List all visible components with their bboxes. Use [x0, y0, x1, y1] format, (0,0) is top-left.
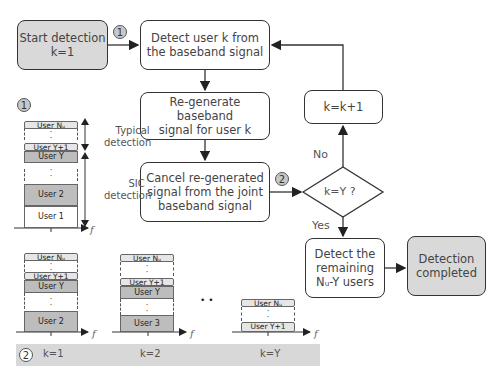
step-k1-label: k=1	[43, 348, 64, 359]
ellipsis-dots: ··	[120, 264, 174, 276]
ellipsis-dots: ··	[24, 168, 78, 180]
start-line1: Start detection	[19, 31, 105, 45]
axis-f-label: f	[190, 328, 194, 339]
start-detection-box: Start detectionk=1	[17, 20, 108, 70]
bar-user-y: User Y	[24, 280, 78, 293]
increment-box: k=k+1	[304, 90, 383, 124]
marker-2-band-icon: 2	[19, 348, 33, 362]
bar-user-1: User 1	[24, 206, 78, 228]
step-labels-band: 2 k=1 k=2 k=Y	[16, 344, 320, 366]
detect-user-line1: Detect user k from	[147, 31, 264, 45]
ellipsis-dots: ··	[24, 297, 78, 309]
bar-user-nu: User Nᵤ	[241, 299, 295, 307]
bar-user-2: User 2	[24, 311, 78, 332]
ellipsis-dots: ··	[241, 309, 295, 321]
cancel-line1: Cancel re-generated	[146, 171, 264, 185]
typical-detection-label: Typicaldetection	[104, 125, 151, 149]
detect-user-line2: the baseband signal	[147, 45, 264, 59]
cancel-box: Cancel re-generatedsignal from the joint…	[140, 162, 270, 222]
detect-remaining-box: Detect theremainingNᵤ-Y users	[305, 238, 385, 298]
step-k2-label: k=2	[140, 348, 161, 359]
remaining-line2: remaining	[315, 261, 376, 275]
regenerate-box: Re-generate basebandsignal for user k	[140, 92, 270, 140]
marker-2-icon: 2	[275, 172, 289, 186]
ellipsis-dots: ··	[24, 130, 78, 142]
increment-label: k=k+1	[324, 100, 364, 114]
ellipsis-between-steps: • •	[200, 295, 213, 305]
sic-detection-label: SICdetection	[104, 178, 151, 202]
step-ky-label: k=Y	[260, 348, 280, 359]
remaining-line1: Detect the	[315, 247, 376, 261]
axis-f-label: f	[314, 328, 318, 339]
detect-user-box: Detect user k fromthe baseband signal	[140, 20, 270, 70]
axis-f-label: f	[92, 328, 96, 339]
completed-line2: completed	[416, 266, 477, 280]
yes-label: Yes	[312, 219, 330, 232]
start-line2: k=1	[19, 45, 105, 59]
axis-f-label: f	[90, 224, 94, 235]
bar-user-y1: User Y+1	[241, 322, 295, 332]
cancel-line2: signal from the joint	[146, 185, 264, 199]
no-label: No	[313, 148, 328, 161]
regenerate-line1: Re-generate baseband	[141, 95, 269, 123]
marker-1-spectrum-icon: 1	[17, 98, 31, 112]
bar-user-y: User Y	[120, 286, 174, 299]
bar-user-y1: User Y+1	[24, 143, 78, 151]
ellipsis-dots: ··	[120, 303, 174, 315]
regenerate-line2: signal for user k	[141, 123, 269, 137]
completed-line1: Detection	[416, 252, 477, 266]
bar-user-y1: User Y+1	[120, 278, 174, 286]
bar-user-2: User 2	[24, 184, 78, 206]
bar-user-y: User Y	[24, 151, 78, 163]
decision-label: k=Y ?	[324, 185, 356, 198]
marker-1-icon: 1	[113, 25, 127, 39]
cancel-line3: baseband signal	[146, 199, 264, 213]
bar-user-y1: User Y+1	[24, 272, 78, 280]
detection-completed-box: Detectioncompleted	[407, 236, 486, 296]
bar-user-nu: User Nᵤ	[120, 254, 174, 262]
remaining-line3: Nᵤ-Y users	[315, 275, 376, 289]
bar-user-3: User 3	[120, 315, 174, 332]
